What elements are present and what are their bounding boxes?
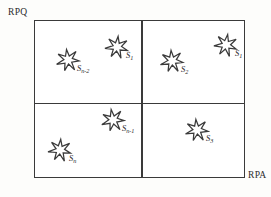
marker-label-s-n: Sn: [69, 153, 76, 163]
marker-label-subscript: 2: [185, 68, 188, 75]
quadrant-divider-horizontal: [34, 103, 245, 105]
marker-label-s-1-q1: S1: [235, 48, 242, 58]
marker-label-s-n-2: Sn-2: [77, 63, 89, 73]
marker-label-subscript: 1: [130, 54, 133, 61]
quadrant-divider-vertical: [141, 20, 143, 178]
axis-label-rpa: RPA: [248, 170, 267, 180]
marker-label-s-1-q2: S1: [126, 50, 133, 60]
marker-label-subscript: n: [73, 157, 76, 164]
marker-label-subscript: 1: [239, 52, 242, 59]
quadrant-scatter-figure: RPQ RPA Sn-2S1S2S1Sn-1SnS3: [0, 0, 271, 197]
marker-label-subscript: n-2: [81, 67, 89, 74]
marker-label-s-2: S2: [181, 64, 188, 74]
marker-label-subscript: n-1: [126, 127, 134, 134]
marker-label-s-3: S3: [206, 133, 213, 143]
marker-label-s-n-1: Sn-1: [122, 123, 134, 133]
axis-label-rpq: RPQ: [8, 7, 27, 17]
marker-label-subscript: 3: [210, 137, 213, 144]
